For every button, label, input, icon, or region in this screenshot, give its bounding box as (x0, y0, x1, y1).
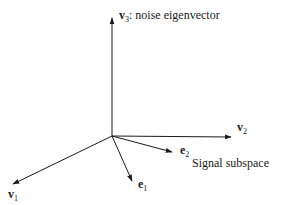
vector-e1-arrow (112, 136, 132, 181)
axis-v1-label: v1 (8, 187, 18, 203)
vector-e2-arrow (112, 136, 172, 152)
axis-v2-label: v2 (237, 120, 247, 136)
signal-subspace-label: Signal subspace (192, 156, 269, 170)
vector-e1-label: e1 (138, 177, 147, 193)
vector-e2-label: e2 (180, 143, 189, 159)
axis-v1-arrow (13, 136, 112, 184)
eigenvector-diagram: v3: noise eigenvectorv2v1e2e1Signal subs… (0, 0, 283, 205)
axis-v3-label: v3: noise eigenvector (119, 8, 220, 24)
axis-v2-arrow (112, 136, 231, 137)
